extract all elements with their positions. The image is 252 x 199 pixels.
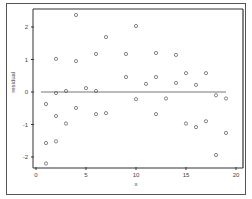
data-point	[154, 113, 157, 116]
x-tick-label: 0	[34, 172, 38, 178]
y-tick-label: -2	[23, 154, 29, 160]
data-point	[214, 153, 217, 156]
data-point	[64, 122, 67, 125]
data-point	[134, 24, 137, 27]
data-point	[144, 82, 147, 85]
data-point	[184, 122, 187, 125]
y-axis-label: residual	[10, 72, 16, 93]
data-point	[154, 51, 157, 54]
data-point	[84, 87, 87, 90]
data-point	[214, 94, 217, 97]
data-points	[44, 13, 227, 165]
data-point	[54, 140, 57, 143]
data-point	[184, 72, 187, 75]
data-point	[174, 53, 177, 56]
data-point	[224, 131, 227, 134]
data-point	[104, 35, 107, 38]
data-point	[94, 52, 97, 55]
y-tick-label: 1	[25, 57, 29, 63]
data-point	[94, 113, 97, 116]
data-point	[54, 57, 57, 60]
x-axis-label: x	[135, 181, 138, 187]
data-point	[194, 126, 197, 129]
data-point	[74, 60, 77, 63]
data-point	[74, 13, 77, 16]
data-point	[204, 120, 207, 123]
y-tick-label: -1	[23, 122, 29, 128]
data-point	[164, 97, 167, 100]
data-point	[44, 162, 47, 165]
data-point	[44, 102, 47, 105]
data-point	[104, 112, 107, 115]
data-point	[204, 72, 207, 75]
x-tick-label: 10	[133, 172, 140, 178]
y-tick-label: 0	[25, 89, 29, 95]
data-point	[44, 141, 47, 144]
data-point	[74, 106, 77, 109]
x-tick-label: 15	[183, 172, 190, 178]
axes: -2-101205101520	[23, 9, 243, 178]
y-tick-label: 2	[25, 24, 29, 30]
x-tick-label: 5	[84, 172, 88, 178]
data-point	[124, 52, 127, 55]
x-tick-label: 20	[233, 172, 240, 178]
scatter-chart: -2-101205101520 x residual	[0, 0, 252, 199]
data-point	[134, 98, 137, 101]
data-point	[194, 83, 197, 86]
data-point	[174, 81, 177, 84]
data-point	[224, 97, 227, 100]
data-point	[154, 75, 157, 78]
data-point	[124, 75, 127, 78]
data-point	[54, 114, 57, 117]
